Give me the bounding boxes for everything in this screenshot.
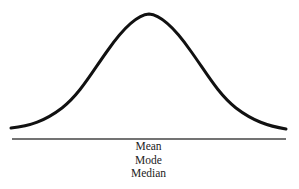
center-labels: Mean Mode Median [0, 140, 299, 181]
label-mode: Mode [0, 154, 299, 168]
label-mean: Mean [0, 140, 299, 154]
bell-curve [11, 14, 286, 129]
label-median: Median [0, 167, 299, 181]
